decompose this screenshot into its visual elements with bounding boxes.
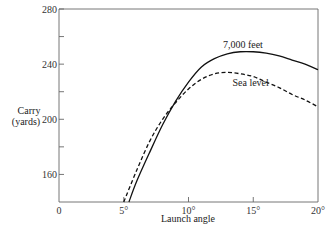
y-tick-label: 240	[42, 59, 57, 70]
x-tick-label: 20°	[311, 205, 325, 216]
y-axis-ticks: 160200240280	[42, 4, 64, 180]
series-label-7000-feet: 7,000 feet	[223, 39, 263, 50]
x-tick-label: 15°	[246, 205, 260, 216]
x-axis-label: Launch angle	[161, 213, 216, 224]
x-tick-label: 5°	[119, 205, 128, 216]
axes-box	[59, 9, 318, 202]
y-tick-label: 280	[42, 4, 57, 15]
series-label-sea-level: Sea level	[232, 77, 269, 88]
y-axis-label-line2: (yards)	[12, 116, 40, 128]
y-tick-label: 200	[42, 114, 57, 125]
sea-level-line	[124, 72, 318, 202]
launch-angle-chart: 160200240280 05°10°15°20° Launch angle C…	[0, 0, 334, 230]
plot-frame	[59, 9, 318, 202]
altitude-7000-line	[129, 52, 318, 202]
data-lines	[124, 52, 318, 202]
y-tick-label: 160	[42, 169, 57, 180]
x-tick-label: 0	[57, 205, 62, 216]
y-axis-label-line1: Carry	[18, 105, 41, 116]
